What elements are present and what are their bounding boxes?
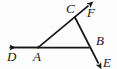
vertex-label-b: B xyxy=(96,34,104,47)
geometry-figure: C F B A D E xyxy=(0,0,117,69)
ray-A-through-C-to-F xyxy=(38,6,89,48)
vertex-label-f: F xyxy=(87,6,95,19)
vertex-label-e: E xyxy=(103,56,111,69)
vertex-label-a: A xyxy=(33,50,41,63)
vertex-label-d: D xyxy=(7,50,16,63)
vertex-label-c: C xyxy=(66,2,75,15)
ray-C-through-B-to-E xyxy=(75,17,99,64)
